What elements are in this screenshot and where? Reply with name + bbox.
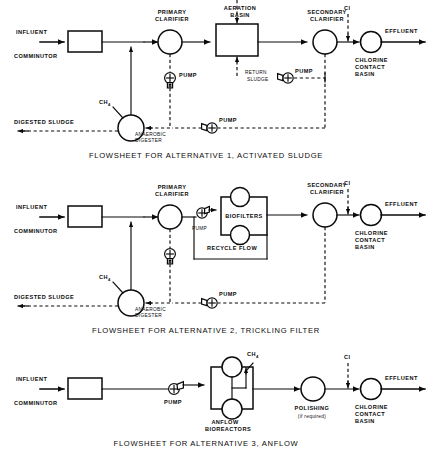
- chlorine-label-l3-1: BASIN: [355, 71, 375, 77]
- pump-label-primary-1: PUMP: [179, 72, 197, 78]
- comminutor-box-3: [68, 378, 102, 399]
- polishing-label-3: POLISHING: [295, 405, 330, 411]
- polishing-note-3: (if required): [298, 414, 327, 419]
- anaerobic-label-l1-1: ANAEROBIC: [135, 132, 166, 137]
- line-ch4-takeoff-1: [113, 107, 123, 118]
- pump-primary-sludge-2: [165, 249, 176, 264]
- comminutor-box-2: [68, 206, 102, 227]
- primary-clarifier-2: [158, 205, 182, 229]
- digested-sludge-label-1: DIGESTED SLUDGE: [14, 119, 74, 125]
- aeration-basin-1: [216, 24, 258, 56]
- pump-return-sludge-1: [278, 73, 294, 83]
- pump-label-3: PUMP: [164, 399, 182, 405]
- biofilter-unit-top-2: [231, 188, 250, 207]
- anflow-label-l1-3: ANFLOW: [211, 419, 239, 425]
- flowsheet-page: INFLUENT COMMINUTOR PRIMARY CLARIFIER PU…: [0, 0, 434, 463]
- pump-label-waste-2: PUMP: [219, 291, 237, 297]
- pump-primary-sludge-1: [165, 73, 176, 88]
- anaerobic-label-l2-1: DIGESTER: [135, 138, 162, 143]
- influent-label-2: INFLUENT: [16, 204, 47, 210]
- cl-label-3: Cl: [344, 354, 351, 360]
- effluent-label-1: EFFLUENT: [385, 28, 418, 34]
- pump-label-waste-1: PUMP: [219, 117, 237, 123]
- return-sludge-label-l1-1: RETURN: [245, 70, 267, 75]
- biofilter-unit-bottom-2: [231, 226, 250, 245]
- chlorine-label-l1-2: CHLORINE: [355, 230, 388, 236]
- comminutor-label-1: COMMINUTOR: [14, 53, 58, 59]
- aeration-basin-label-l1-1: AERATION: [224, 5, 256, 11]
- cl-label-1: Cl: [344, 5, 351, 11]
- recycle-flow-label-2: RECYCLE FLOW: [207, 245, 257, 251]
- caption-alternative-2: FLOWSHEET FOR ALTERNATIVE 2, TRICKLING F…: [92, 326, 320, 335]
- effluent-label-3: EFFLUENT: [385, 375, 418, 381]
- aeration-basin-label-l2-1: BASIN: [230, 12, 250, 18]
- anaerobic-label-l2-2: DIGESTER: [135, 313, 162, 318]
- comminutor-label-3: COMMINUTOR: [14, 400, 58, 406]
- polishing-unit-3: [301, 377, 325, 401]
- chlorine-label-l3-3: BASIN: [355, 418, 375, 424]
- flowsheet-canvas: INFLUENT COMMINUTOR PRIMARY CLARIFIER PU…: [0, 0, 434, 463]
- secondary-clarifier-1: [313, 30, 337, 54]
- secondary-clarifier-label-l2-2: CLARIFIER: [310, 189, 344, 195]
- chlorine-label-l1-3: CHLORINE: [355, 404, 388, 410]
- primary-clarifier-label-l2-1: CLARIFIER: [155, 16, 189, 22]
- ch4-label-1: CH4: [99, 99, 111, 107]
- pump-biofilter-feed-2: [197, 206, 210, 218]
- comminutor-box-1: [68, 31, 102, 52]
- secondary-clarifier-label-l1-1: SECONDARY: [307, 9, 347, 15]
- caption-alternative-3: FLOWSHEET FOR ALTERNATIVE 3, ANFLOW: [114, 439, 299, 448]
- secondary-clarifier-label-l2-1: CLARIFIER: [310, 16, 344, 22]
- chlorine-contact-basin-1: [361, 32, 382, 53]
- ch4-label-3: CH4: [247, 351, 259, 359]
- anflow-label-l2-3: BIOREACTORS: [205, 426, 251, 432]
- caption-alternative-1: FLOWSHEET FOR ALTERNATIVE 1, ACTIVATED S…: [89, 151, 323, 160]
- pump-waste-sludge-2: [202, 298, 218, 308]
- ch4-label-2: CH4: [99, 274, 111, 282]
- flowsheet-alternative-1: INFLUENT COMMINUTOR PRIMARY CLARIFIER PU…: [14, 0, 425, 160]
- anflow-unit-top-3: [222, 357, 242, 377]
- pump-feed-3: [169, 382, 184, 395]
- chlorine-label-l3-2: BASIN: [355, 244, 375, 250]
- biofilters-label-2: BIOFILTERS: [225, 213, 262, 219]
- influent-label-3: INFLUENT: [16, 376, 47, 382]
- primary-clarifier-label-l1-1: PRIMARY: [158, 9, 187, 15]
- primary-clarifier-label-l1-2: PRIMARY: [158, 184, 187, 190]
- chlorine-label-l2-2: CONTACT: [355, 237, 385, 243]
- comminutor-label-2: COMMINUTOR: [14, 228, 58, 234]
- pump-label-return-1: PUMP: [295, 68, 313, 74]
- return-sludge-label-l2-1: SLUDGE: [247, 77, 269, 82]
- anflow-unit-bottom-3: [222, 399, 242, 419]
- flowsheet-alternative-3: INFLUENT COMMINUTOR PUMP CH4 ANFLOW BIOR…: [14, 351, 425, 448]
- flowsheet-alternative-2: INFLUENT COMMINUTOR PRIMARY CLARIFIER PU…: [14, 180, 425, 335]
- chlorine-contact-basin-2: [361, 205, 382, 226]
- primary-clarifier-label-l2-2: CLARIFIER: [155, 191, 189, 197]
- line-ch4-takeoff-2: [113, 282, 123, 293]
- chlorine-label-l2-1: CONTACT: [355, 64, 385, 70]
- secondary-clarifier-2: [313, 203, 337, 227]
- secondary-clarifier-label-l1-2: SECONDARY: [307, 182, 347, 188]
- effluent-label-2: EFFLUENT: [385, 201, 418, 207]
- cl-label-2: Cl: [344, 180, 351, 186]
- chlorine-contact-basin-3: [361, 379, 382, 400]
- anaerobic-label-l1-2: ANAEROBIC: [135, 307, 166, 312]
- chlorine-label-l2-3: CONTACT: [355, 411, 385, 417]
- primary-clarifier-1: [158, 30, 182, 54]
- influent-label-1: INFLUENT: [16, 29, 47, 35]
- chlorine-label-l1-1: CHLORINE: [355, 57, 388, 63]
- pump-waste-sludge-1: [202, 123, 218, 133]
- digested-sludge-label-2: DIGESTED SLUDGE: [14, 294, 74, 300]
